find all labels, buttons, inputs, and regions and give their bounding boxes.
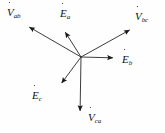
vector-e-b — [81, 57, 113, 58]
label-e-c-symbol: E — [32, 89, 39, 101]
label-e-c-subscript: c — [39, 95, 42, 103]
vector-e-c — [62, 57, 81, 83]
label-v-bc-subscript: bc — [142, 16, 148, 24]
label-e-c: Ec — [32, 86, 42, 103]
label-e-b-subscript: b — [129, 59, 132, 67]
label-v-bc: Vbc — [135, 7, 148, 24]
vector-v-ca — [80, 57, 81, 111]
label-v-ca-subscript: ca — [95, 117, 101, 125]
label-v-ca: Vca — [88, 108, 101, 125]
label-v-bc-symbol: V — [135, 10, 142, 22]
label-v-ab-symbol: V — [7, 6, 14, 18]
label-e-a-subscript: a — [67, 13, 70, 21]
label-v-ab: Vab — [7, 3, 20, 20]
vector-v-ab — [29, 27, 81, 57]
vector-e-a — [65, 32, 81, 57]
label-e-a: Ea — [60, 4, 70, 21]
label-e-a-symbol: E — [60, 7, 67, 19]
label-v-ca-symbol: V — [88, 111, 95, 123]
label-v-ab-subscript: ab — [14, 12, 21, 20]
label-e-b: Eb — [122, 50, 132, 67]
phasor-diagram-figure: Vab Ea Vbc Eb Ec Vca — [0, 0, 165, 133]
label-e-b-symbol: E — [122, 53, 129, 65]
